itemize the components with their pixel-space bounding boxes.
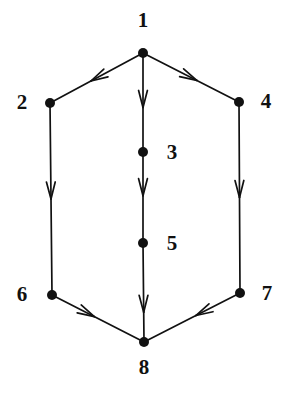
node-dot-4[interactable] (234, 97, 244, 107)
edge-6-to-8 (52, 295, 144, 342)
edge-7-to-8 (144, 293, 240, 342)
node-label-1: 1 (138, 10, 149, 31)
node-dot-7[interactable] (235, 288, 245, 298)
node-label-2: 2 (17, 92, 28, 113)
node-label-4: 4 (261, 91, 272, 112)
node-label-8: 8 (139, 357, 150, 378)
node-dot-5[interactable] (138, 238, 148, 248)
figure-canvas: 12345678 (0, 0, 290, 402)
edge-1-to-4 (143, 53, 239, 102)
nodes-layer (45, 48, 245, 347)
node-label-7: 7 (262, 283, 273, 304)
edge-5-to-8 (143, 243, 144, 342)
graph-svg (0, 0, 290, 402)
node-dot-8[interactable] (139, 337, 149, 347)
arrowheads-layer (46, 69, 243, 317)
node-dot-2[interactable] (45, 98, 55, 108)
node-label-5: 5 (167, 233, 178, 254)
node-label-3: 3 (167, 142, 178, 163)
node-dot-6[interactable] (47, 290, 57, 300)
node-dot-3[interactable] (138, 147, 148, 157)
node-label-6: 6 (17, 284, 28, 305)
node-dot-1[interactable] (138, 48, 148, 58)
edge-1-to-2 (50, 53, 143, 103)
